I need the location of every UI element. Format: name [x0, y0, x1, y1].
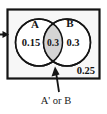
probability-b-only: 0.3: [66, 37, 79, 48]
callout-caption: A' or B: [41, 95, 71, 106]
set-a-label: A: [31, 18, 39, 30]
set-b-label: B: [66, 17, 74, 29]
venn-diagram-figure: A B 0.15 0.3 0.3 0.25 A' or B: [0, 0, 107, 114]
venn-diagram-canvas: A B 0.15 0.3 0.3 0.25 A' or B: [0, 0, 107, 114]
probability-a-only: 0.15: [22, 37, 40, 48]
probability-outside: 0.25: [77, 65, 95, 76]
probability-intersection: 0.3: [47, 38, 59, 48]
